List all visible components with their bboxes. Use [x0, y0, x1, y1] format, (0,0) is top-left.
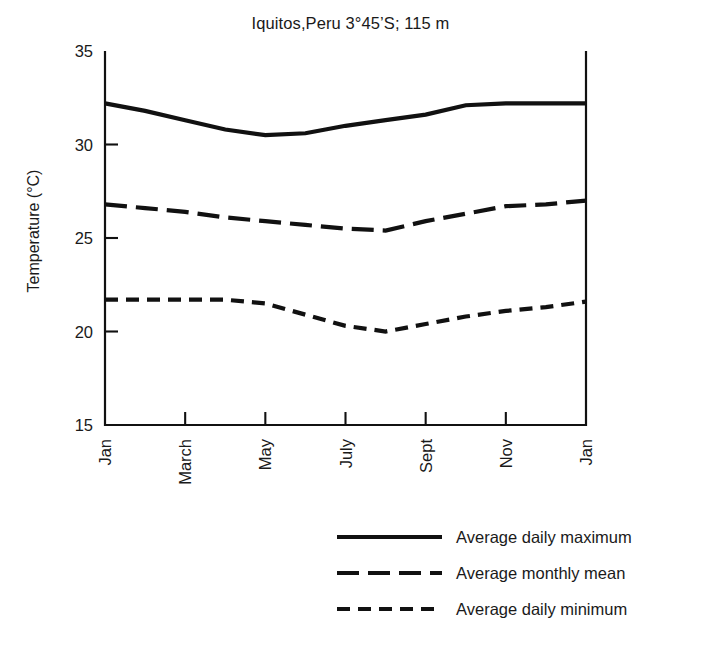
x-tick-label: March — [176, 439, 194, 485]
y-tick-label: 25 — [75, 229, 93, 247]
legend-label-2: Average monthly mean — [456, 564, 625, 582]
x-tick-label: Sept — [417, 439, 435, 473]
chart-legend: Average daily maximumAverage monthly mea… — [337, 528, 632, 618]
y-tick-label: 30 — [75, 136, 93, 154]
data-series-group — [105, 103, 586, 331]
climate-chart-figure: Iquitos,Peru 3°45’S; 115 m Temperature (… — [0, 0, 701, 655]
series-line-2 — [105, 201, 586, 231]
legend-label-3: Average daily minimum — [456, 600, 627, 618]
series-line-3 — [105, 300, 586, 332]
legend-label-1: Average daily maximum — [456, 528, 632, 546]
y-tick-label: 35 — [75, 42, 93, 60]
plot-svg: 1520253035 JanMarchMayJulySeptNovJan Ave… — [0, 0, 701, 655]
axis-frame — [105, 51, 586, 425]
axis-frame-path — [105, 51, 586, 425]
x-tick-label: May — [256, 438, 274, 470]
x-tick-label: Jan — [96, 439, 114, 466]
y-tick-label: 15 — [75, 416, 93, 434]
x-tick-label: July — [337, 438, 355, 468]
y-axis-ticks: 1520253035 — [75, 42, 118, 434]
y-tick-label: 20 — [75, 323, 93, 341]
x-axis-ticks: JanMarchMayJulySeptNovJan — [96, 412, 595, 485]
x-tick-label: Nov — [497, 438, 515, 468]
x-tick-label: Jan — [577, 439, 595, 466]
series-line-1 — [105, 103, 586, 135]
